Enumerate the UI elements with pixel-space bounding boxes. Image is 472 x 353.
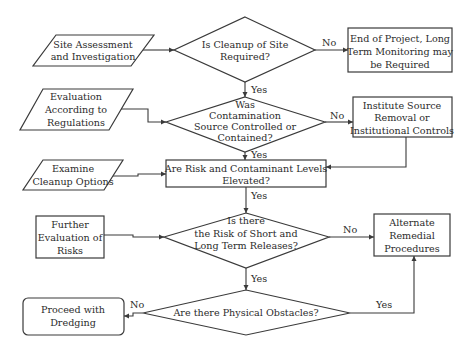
svg-text:Contamination: Contamination bbox=[209, 110, 281, 121]
node-institute-source-removal: Institute Source Removal or Institutiona… bbox=[350, 97, 454, 137]
svg-text:Site Assessment: Site Assessment bbox=[53, 39, 132, 50]
edge-evaluation-to-source bbox=[120, 109, 166, 122]
node-release-risk: Is there the Risk of Short and Long Term… bbox=[164, 213, 329, 268]
node-end-of-project: End of Project, Long Term Monitoring may… bbox=[347, 28, 453, 72]
edge-label-yes-2: Yes bbox=[250, 149, 267, 160]
svg-text:Examine: Examine bbox=[52, 163, 94, 174]
svg-text:According to: According to bbox=[44, 104, 107, 115]
edge-label-no-1: No bbox=[322, 37, 336, 48]
node-proceed-dredging: Proceed with Dredging bbox=[23, 298, 124, 335]
svg-text:Source Controlled or: Source Controlled or bbox=[194, 121, 297, 132]
svg-text:Contained?: Contained? bbox=[217, 132, 272, 143]
edge-label-no-4: No bbox=[130, 299, 144, 310]
svg-text:Long Term Releases?: Long Term Releases? bbox=[194, 240, 298, 251]
svg-text:Dredging: Dredging bbox=[50, 317, 96, 328]
node-examine-cleanup: Examine Cleanup Options bbox=[23, 160, 123, 190]
node-physical-obstacles: Are there Physical Obstacles? bbox=[143, 290, 350, 335]
svg-text:be Required: be Required bbox=[370, 59, 430, 70]
edge-institute-to-risk bbox=[326, 137, 406, 167]
svg-text:Term Monitoring may: Term Monitoring may bbox=[347, 46, 453, 57]
edge-label-no-2: No bbox=[330, 110, 344, 121]
node-source-controlled: Was Contamination Source Controlled or C… bbox=[166, 97, 325, 152]
svg-text:Institutional Controls: Institutional Controls bbox=[350, 125, 454, 136]
svg-text:Risks: Risks bbox=[57, 245, 83, 256]
svg-text:Removal or: Removal or bbox=[374, 112, 430, 123]
svg-text:Cleanup Options: Cleanup Options bbox=[32, 176, 113, 187]
svg-text:Elevated?: Elevated? bbox=[222, 175, 270, 186]
svg-text:Proceed with: Proceed with bbox=[41, 304, 105, 315]
svg-text:Evaluation of: Evaluation of bbox=[38, 232, 104, 243]
svg-text:Remedial: Remedial bbox=[389, 230, 435, 241]
svg-text:Are Risk and Contaminant Level: Are Risk and Contaminant Levels bbox=[164, 163, 328, 174]
svg-text:End of Project, Long: End of Project, Long bbox=[350, 33, 450, 44]
svg-text:and Investigation: and Investigation bbox=[51, 51, 136, 62]
svg-text:Is Cleanup of Site: Is Cleanup of Site bbox=[202, 39, 289, 50]
edge-further-to-release bbox=[104, 235, 164, 237]
node-site-assessment: Site Assessment and Investigation bbox=[33, 35, 154, 66]
svg-text:Are there Physical Obstacles?: Are there Physical Obstacles? bbox=[172, 307, 318, 318]
edge-label-no-3: No bbox=[343, 224, 357, 235]
edge-label-yes-4: Yes bbox=[250, 273, 267, 284]
svg-text:the Risk of Short and: the Risk of Short and bbox=[194, 228, 297, 239]
node-risk-elevated: Are Risk and Contaminant Levels Elevated… bbox=[164, 160, 328, 187]
node-alternate-remedial: Alternate Remedial Procedures bbox=[374, 214, 450, 256]
flowchart-diagram: No Yes No Yes Yes No Yes No Yes bbox=[0, 0, 472, 353]
edge-label-yes-1: Yes bbox=[250, 84, 267, 95]
edge-obstacles-to-dredging-no bbox=[124, 313, 143, 316]
svg-text:Further: Further bbox=[51, 219, 89, 230]
node-cleanup-required: Is Cleanup of Site Required? bbox=[174, 17, 315, 82]
node-evaluation-regulations: Evaluation According to Regulations bbox=[20, 89, 133, 130]
svg-text:Institute Source: Institute Source bbox=[363, 100, 442, 111]
svg-text:Evaluation: Evaluation bbox=[50, 91, 102, 102]
svg-text:Alternate: Alternate bbox=[388, 217, 435, 228]
svg-text:Required?: Required? bbox=[220, 51, 270, 62]
node-further-evaluation: Further Evaluation of Risks bbox=[36, 216, 104, 258]
svg-text:Regulations: Regulations bbox=[47, 117, 105, 128]
edge-examine-to-risk bbox=[112, 174, 166, 176]
svg-text:Is there: Is there bbox=[227, 215, 265, 226]
edge-label-yes-3: Yes bbox=[250, 190, 267, 201]
svg-text:Procedures: Procedures bbox=[384, 243, 439, 254]
edge-label-yes-5: Yes bbox=[375, 299, 392, 310]
svg-text:Was: Was bbox=[235, 99, 255, 110]
